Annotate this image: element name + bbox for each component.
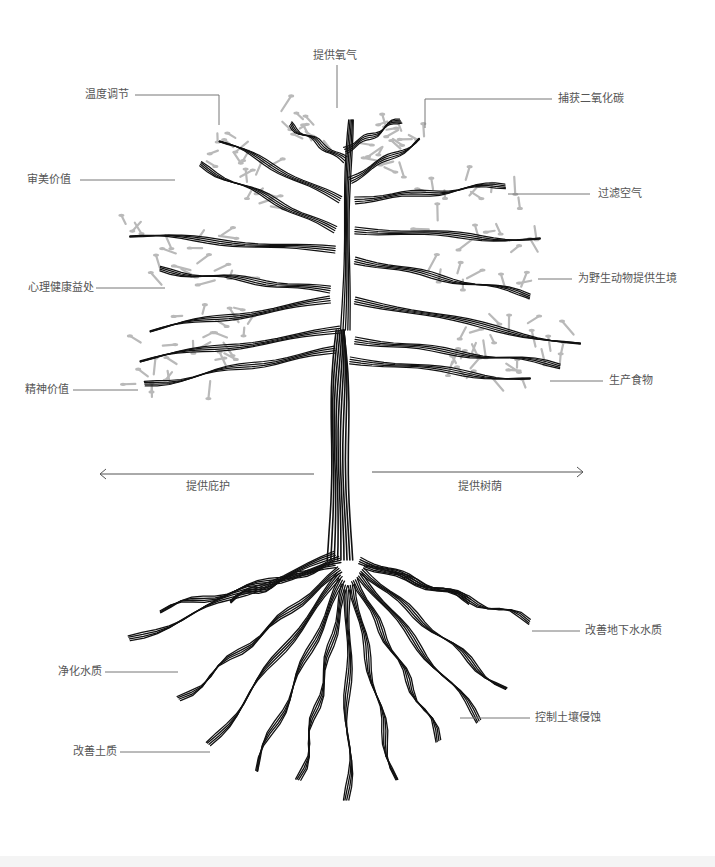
leaf	[558, 352, 564, 355]
leaf	[171, 315, 177, 318]
leaf	[460, 288, 466, 291]
leaf-sprig	[234, 152, 241, 163]
leaf	[397, 138, 403, 141]
leaf-sprig	[466, 167, 470, 180]
branch-strand	[355, 234, 540, 241]
leaf	[171, 264, 177, 267]
leaf	[393, 127, 399, 130]
leaf	[195, 283, 201, 286]
leaf	[529, 329, 535, 332]
leaf	[399, 144, 405, 147]
leaf-sprig	[151, 273, 162, 285]
leaf	[456, 248, 462, 251]
leaf	[187, 246, 193, 249]
leaf	[163, 356, 169, 359]
leaf-sprig	[281, 96, 291, 111]
root-strand	[296, 584, 342, 779]
branch-strand	[355, 259, 530, 296]
leaf	[207, 152, 213, 155]
leaf	[205, 397, 211, 400]
leaf	[233, 358, 239, 361]
root-strand	[364, 568, 506, 690]
leaf	[428, 177, 434, 180]
leaf	[467, 165, 473, 168]
leaf	[288, 94, 294, 97]
branch-strand	[352, 138, 419, 183]
leaf	[375, 153, 381, 156]
leaf-sprig	[246, 169, 247, 182]
leaf	[172, 343, 178, 346]
leaf	[129, 230, 135, 233]
leaf	[445, 374, 451, 377]
leaf	[233, 237, 239, 240]
leaf	[434, 202, 440, 205]
tree-roots	[128, 552, 530, 801]
label-oxygen: 提供氧气	[313, 50, 357, 62]
label-filter-air: 过滤空气	[598, 188, 642, 200]
leaf-sprig	[399, 162, 404, 177]
leaf	[505, 368, 511, 371]
leaf	[375, 123, 381, 126]
leaf	[516, 244, 522, 247]
root-strand	[364, 567, 529, 623]
leaf	[241, 334, 247, 337]
branch-strand	[355, 187, 505, 204]
branch-strand	[355, 339, 560, 366]
leaf	[224, 132, 230, 135]
leaf	[240, 308, 246, 311]
bottom-strip	[0, 856, 715, 867]
leaf-sprig	[458, 240, 471, 250]
leaf	[148, 271, 154, 274]
leaf-sprig	[467, 270, 483, 278]
leaf	[559, 320, 565, 323]
leaf	[401, 175, 407, 178]
leaf-sprig	[521, 272, 527, 286]
leaf-sprig	[193, 341, 194, 353]
shade-arrow	[372, 467, 583, 477]
leaf	[206, 253, 212, 256]
leaf-sprig	[423, 124, 424, 137]
leaf-sprig	[303, 125, 311, 141]
label-shelter: 提供庇护	[186, 481, 230, 493]
leaf	[483, 231, 489, 234]
leaf	[127, 334, 133, 337]
leaf	[168, 247, 174, 250]
tree-branches	[130, 119, 581, 386]
leaf	[250, 168, 256, 171]
leaf	[369, 143, 375, 146]
branch-strand	[351, 138, 419, 181]
leaf	[383, 135, 389, 138]
leaf-sprig	[457, 262, 460, 273]
leaf	[303, 115, 309, 118]
leaf	[304, 123, 310, 126]
leaf-sprig	[154, 358, 156, 375]
leaf	[536, 314, 542, 317]
leaf	[120, 383, 126, 386]
leaf-sprig	[514, 177, 515, 195]
leaf	[365, 155, 371, 158]
leaf	[238, 162, 244, 165]
label-soil: 改善土质	[73, 746, 117, 758]
leaf-sprig	[501, 274, 505, 287]
leaf-sprig	[483, 340, 486, 357]
leaf	[293, 111, 299, 114]
leaf	[516, 282, 522, 285]
leaf-sprig	[518, 197, 520, 208]
label-habitat: 为野生动物提供生境	[578, 273, 677, 285]
leaf-sprig	[428, 255, 437, 271]
leaf-sprig	[256, 162, 262, 175]
shelter-arrow	[100, 469, 314, 479]
label-temperature: 温度调节	[85, 89, 129, 101]
leaf	[434, 253, 440, 256]
leaf	[379, 113, 385, 116]
tree-diagram	[0, 0, 715, 867]
leaf	[230, 226, 236, 229]
label-mental-health: 心理健康益处	[28, 282, 94, 294]
leaf	[480, 269, 486, 272]
label-groundwater: 改善地下水水质	[585, 625, 662, 637]
leaf	[243, 167, 249, 170]
leaf	[496, 323, 502, 326]
leaf	[210, 331, 216, 334]
label-water: 净化水质	[58, 666, 102, 678]
leaf	[221, 138, 227, 141]
